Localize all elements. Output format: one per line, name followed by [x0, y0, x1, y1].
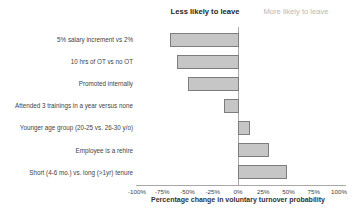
category-label: Employee is a rehire	[0, 146, 133, 155]
group-label-more-likely: More likely to leave	[264, 7, 329, 16]
bar	[224, 99, 239, 113]
bar	[238, 143, 269, 157]
category-label: 10 hrs of OT vs no OT	[0, 57, 133, 66]
bar	[188, 77, 240, 91]
category-label: Short (4-6 mo.) vs. long (>1yr) tenure	[0, 168, 133, 177]
category-label: Attended 3 trainings in a year versus no…	[0, 101, 133, 110]
x-tick-label: 50%	[282, 188, 294, 195]
category-label: Promoted internally	[0, 79, 133, 88]
x-axis-line	[136, 185, 346, 186]
x-tick-label: 100%	[331, 188, 347, 195]
bar	[170, 33, 239, 47]
x-tick-label: 0%	[234, 188, 243, 195]
x-axis-title: Percentage change in voluntary turnover …	[151, 196, 325, 203]
x-tick-label: 25%	[257, 188, 269, 195]
x-tick-label: 75%	[308, 188, 320, 195]
x-tick-label: -50%	[180, 188, 194, 195]
bar	[238, 165, 287, 179]
bar	[238, 121, 250, 135]
category-label: Younger age group (20-25 vs. 26-30 y/o)	[0, 123, 133, 132]
x-tick-label: -25%	[206, 188, 220, 195]
x-tick-label: -75%	[155, 188, 169, 195]
category-label: 5% salary increment vs 2%	[0, 35, 133, 44]
turnover-bar-chart: Less likely to leave More likely to leav…	[0, 0, 362, 214]
group-label-less-likely: Less likely to leave	[171, 7, 240, 16]
x-tick-label: -100%	[128, 188, 146, 195]
bar	[177, 55, 239, 69]
